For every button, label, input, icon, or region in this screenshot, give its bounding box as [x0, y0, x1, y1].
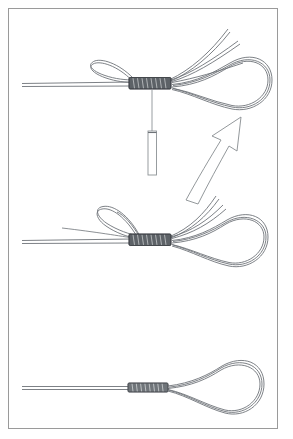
figure-frame: [0, 0, 293, 439]
needle-body: [148, 131, 157, 175]
illustration-root: Loop Knot Tying Sequence: [0, 0, 293, 439]
knot-diagram-svg: [0, 0, 293, 439]
figure-border: [9, 9, 278, 429]
knot-wraps-step-2: [129, 234, 171, 246]
knot-wraps-step-1: [129, 78, 171, 90]
knot-wraps-step-3: [128, 383, 168, 392]
